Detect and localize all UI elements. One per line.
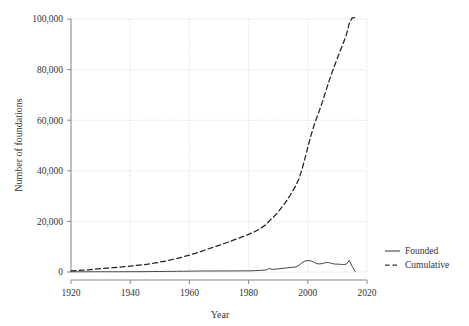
x-tick-label: 1940 [121, 288, 140, 298]
x-tick-label: 2020 [358, 288, 377, 298]
y-tick-label: 40,000 [37, 166, 63, 176]
legend-label-cumulative: Cumulative [405, 260, 449, 270]
y-tick-label: 20,000 [37, 217, 63, 227]
chart-container: 020,00040,00060,00080,000100,000 1920194… [0, 0, 469, 326]
x-axis-title: Year [211, 309, 230, 320]
x-tick-label: 2000 [298, 288, 317, 298]
chart-background [0, 0, 469, 326]
y-tick-label: 60,000 [37, 116, 63, 126]
foundations-line-chart: 020,00040,00060,00080,000100,000 1920194… [0, 0, 469, 326]
x-tick-label: 1960 [180, 288, 199, 298]
legend-label-founded: Founded [405, 246, 439, 256]
y-tick-label: 100,000 [32, 14, 63, 24]
y-tick-label: 80,000 [37, 65, 63, 75]
y-tick-label: 0 [58, 267, 63, 277]
x-tick-label: 1980 [239, 288, 258, 298]
y-axis-title: Number of foundations [13, 98, 24, 191]
x-tick-label: 1920 [62, 288, 81, 298]
